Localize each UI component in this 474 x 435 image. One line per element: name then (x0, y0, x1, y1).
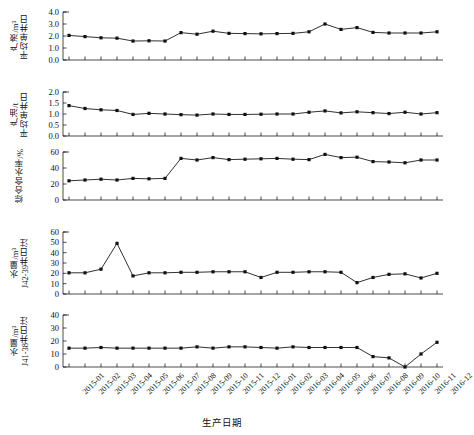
data-point (403, 272, 406, 275)
data-point (83, 107, 86, 110)
data-point (211, 156, 214, 159)
data-point (435, 272, 438, 275)
data-point (67, 104, 70, 107)
data-point (387, 31, 390, 34)
data-point (115, 109, 118, 112)
data-point (419, 158, 422, 161)
data-series-line (69, 243, 437, 282)
y-tick-label: 30 (51, 259, 60, 267)
data-point (371, 111, 374, 114)
data-point (419, 276, 422, 279)
data-point (131, 347, 134, 350)
data-point (179, 157, 182, 160)
y-tick-label: 40 (51, 311, 60, 319)
data-point (99, 346, 102, 349)
y-tick-labels-2: 0204060 (0, 152, 59, 200)
data-point (419, 352, 422, 355)
y-tick-labels-4: 010203040 (0, 315, 59, 367)
data-series-line (69, 342, 437, 367)
plot-area-1 (63, 92, 457, 138)
data-point (355, 281, 358, 284)
data-point (387, 112, 390, 115)
data-point (67, 34, 70, 37)
y-tick-label: 20 (51, 180, 60, 188)
data-point (291, 158, 294, 161)
data-point (323, 270, 326, 273)
data-point (195, 158, 198, 161)
axis-spines (63, 315, 443, 367)
plot-area-4 (63, 315, 457, 369)
data-point (339, 346, 342, 349)
data-point (131, 177, 134, 180)
data-point (355, 346, 358, 349)
y-tick-label: 1.5 (48, 99, 59, 107)
data-series-line (69, 106, 437, 115)
y-tick-label: 3.0 (48, 20, 59, 28)
data-point (131, 274, 134, 277)
data-point (291, 345, 294, 348)
data-point (115, 242, 118, 245)
data-point (243, 270, 246, 273)
data-point (307, 346, 310, 349)
data-point (131, 39, 134, 42)
data-point (387, 160, 390, 163)
data-point (291, 32, 294, 35)
y-tick-label: 1.0 (48, 44, 59, 52)
data-point (211, 112, 214, 115)
data-point (195, 345, 198, 348)
y-tick-label: 20 (51, 269, 60, 277)
data-point (275, 157, 278, 160)
data-point (163, 39, 166, 42)
y-tick-labels-1: 0.00.51.01.52.0 (0, 92, 59, 136)
data-point (211, 270, 214, 273)
data-point (275, 271, 278, 274)
data-point (83, 271, 86, 274)
data-point (67, 179, 70, 182)
data-point (339, 271, 342, 274)
y-tick-labels-0: 0.01.02.03.04.0 (0, 12, 59, 60)
data-point (403, 111, 406, 114)
chart-panel-1: 平均单井日产油/t0.00.51.01.52.0 (0, 92, 462, 136)
data-point (243, 345, 246, 348)
data-series-line (69, 24, 437, 41)
y-tick-label: 2.0 (48, 88, 59, 96)
data-point (307, 30, 310, 33)
y-tick-label: 0 (55, 290, 59, 298)
data-point (227, 113, 230, 116)
data-point (371, 276, 374, 279)
data-point (195, 271, 198, 274)
data-point (323, 22, 326, 25)
data-point (323, 346, 326, 349)
data-point (403, 161, 406, 164)
data-point (163, 177, 166, 180)
chart-panel-4: J41-38井日注水量/m³010203040 (0, 315, 462, 367)
data-point (435, 341, 438, 344)
data-point (243, 113, 246, 116)
data-point (387, 273, 390, 276)
data-point (99, 108, 102, 111)
data-point (227, 270, 230, 273)
data-point (243, 32, 246, 35)
data-point (403, 31, 406, 34)
y-tick-label: 40 (51, 249, 60, 257)
data-point (291, 112, 294, 115)
data-point (147, 347, 150, 350)
chart-panel-2: 综合含水率/%0204060 (0, 152, 462, 200)
plot-area-0 (63, 12, 457, 62)
data-series-line (69, 154, 437, 180)
data-point (435, 158, 438, 161)
data-point (211, 347, 214, 350)
data-point (83, 347, 86, 350)
y-tick-label: 1.0 (48, 110, 59, 118)
data-point (275, 347, 278, 350)
data-point (99, 36, 102, 39)
data-point (339, 156, 342, 159)
data-point (371, 355, 374, 358)
data-point (243, 158, 246, 161)
data-point (211, 30, 214, 33)
y-tick-label: 0.0 (48, 132, 59, 140)
y-tick-label: 50 (51, 238, 60, 246)
data-point (259, 32, 262, 35)
data-point (179, 31, 182, 34)
data-point (355, 110, 358, 113)
